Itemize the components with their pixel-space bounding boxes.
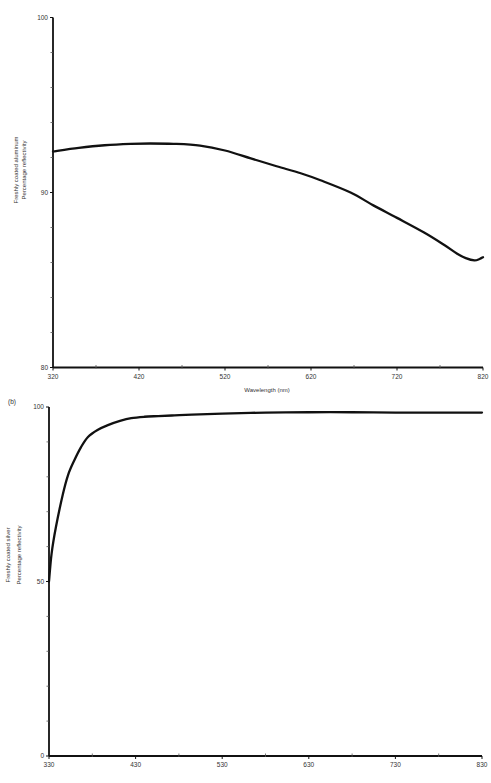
aluminum-reflectivity-line (53, 144, 483, 261)
x-tick-label: 730 (390, 761, 401, 768)
chart-silver: (b) 050100330430530630730830 Freshly coa… (5, 398, 488, 768)
chart-aluminum: 8090100320420520620720820 Wavelength (nm… (13, 14, 489, 393)
tick-labels: 8090100320420520620720820 (37, 14, 489, 380)
panel-label: (b) (8, 398, 16, 406)
y-tick-label: 90 (41, 189, 49, 196)
x-tick-label: 620 (306, 373, 317, 380)
y-axis-title-line1: Freshly coated silver (5, 527, 11, 582)
tick-marks (50, 18, 483, 371)
y-axis-title-line1: Freshly coated aluminum (13, 136, 19, 203)
tick-marks (46, 407, 482, 759)
x-tick-label: 420 (134, 373, 145, 380)
y-tick-label: 100 (33, 403, 44, 410)
x-tick-label: 520 (220, 373, 231, 380)
y-tick-label: 50 (37, 578, 45, 585)
x-tick-label: 320 (48, 373, 59, 380)
y-tick-label: 80 (41, 364, 49, 371)
y-axis-title-line2: Percentage reflectivity (21, 140, 27, 199)
axes (49, 407, 482, 756)
y-tick-label: 0 (40, 752, 44, 759)
y-tick-label: 100 (37, 14, 48, 21)
x-tick-label: 820 (478, 373, 489, 380)
y-axis-title-line2: Percentage reflectivity (16, 525, 22, 584)
silver-reflectivity-line (49, 412, 482, 581)
x-tick-label: 720 (392, 373, 403, 380)
x-tick-label: 830 (477, 761, 488, 768)
x-tick-label: 530 (217, 761, 228, 768)
x-axis-title: Wavelength (nm) (244, 387, 289, 393)
x-tick-label: 630 (303, 761, 314, 768)
x-tick-label: 430 (130, 761, 141, 768)
axes (53, 18, 483, 368)
tick-labels: 050100330430530630730830 (33, 403, 488, 768)
x-tick-label: 330 (44, 761, 55, 768)
reflectivity-charts: 8090100320420520620720820 Wavelength (nm… (0, 0, 491, 783)
